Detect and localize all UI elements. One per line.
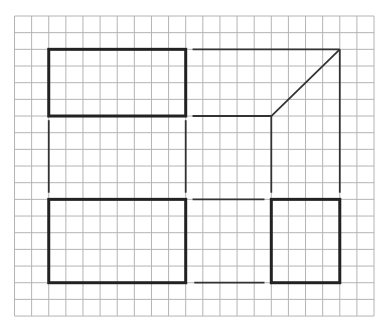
diagram-canvas xyxy=(0,0,387,325)
projection-diagram xyxy=(0,0,387,325)
grid xyxy=(15,16,375,316)
